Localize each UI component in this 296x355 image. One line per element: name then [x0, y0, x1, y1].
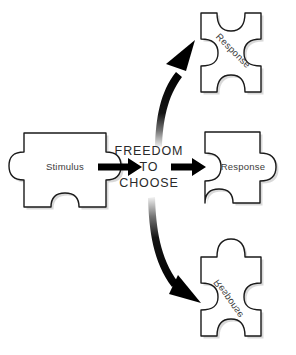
curved-arrow-up-head-icon — [166, 40, 195, 71]
puzzle-piece-stimulus[interactable]: Stimulus — [9, 133, 124, 210]
response-middle-label: Response — [221, 161, 265, 172]
arrow-center-to-bottom — [148, 197, 201, 303]
arrow-right-icon — [171, 158, 206, 176]
center-line-freedom: FREEDOM — [115, 144, 184, 158]
center-line-choose: CHOOSE — [119, 176, 179, 190]
arrow-center-to-top — [155, 40, 195, 147]
puzzle-piece-response-middle[interactable]: Response — [205, 132, 279, 206]
stimulus-label: Stimulus — [46, 161, 84, 172]
curved-arrow-down-icon — [148, 197, 178, 287]
puzzle-piece-response-top[interactable]: Response — [201, 13, 264, 95]
arrow-center-to-middle — [171, 158, 206, 176]
diagram-canvas: Stimulus FREEDOM TO CHOOSE — [0, 0, 296, 355]
puzzle-piece-response-bottom[interactable]: Response — [201, 239, 264, 339]
curved-arrow-up-icon — [155, 72, 182, 147]
center-line-to: TO — [140, 160, 159, 174]
diagram-svg: Stimulus FREEDOM TO CHOOSE — [0, 0, 296, 355]
